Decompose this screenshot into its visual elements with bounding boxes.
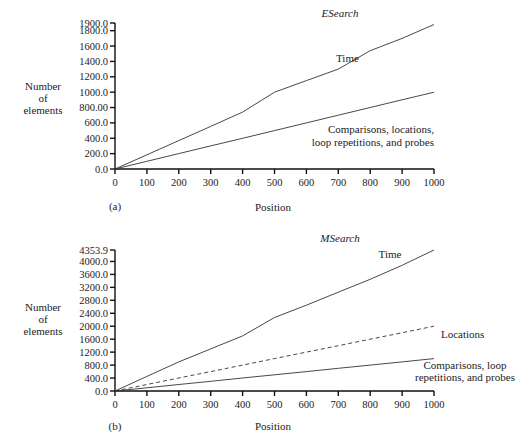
y-tick-label: 1200.0 — [79, 71, 108, 82]
esearch-chart: 0.0200.0400.0600.0800.001000.01200.01400… — [0, 0, 530, 222]
y-tick-label: 200.0 — [84, 148, 108, 159]
x-axis-label: Position — [255, 420, 292, 432]
x-tick-label: 1000 — [424, 399, 445, 410]
y-axis-label-line1: Number — [25, 301, 61, 313]
x-tick-label: 200 — [171, 177, 187, 188]
y-tick-label: 3200.0 — [79, 282, 108, 293]
x-tick-label: 1000 — [424, 177, 445, 188]
series-line-locations — [115, 326, 434, 391]
x-tick-label: 500 — [267, 177, 283, 188]
x-tick-label: 700 — [330, 177, 346, 188]
x-tick-label: 600 — [299, 399, 315, 410]
panel-label: (a) — [109, 200, 122, 213]
x-tick-label: 100 — [139, 399, 155, 410]
panel-label: (b) — [109, 420, 122, 433]
annotation-locations: Locations — [441, 328, 484, 340]
x-tick-label: 800 — [362, 399, 378, 410]
annotation-comparisons-line2: loop repetitions, and probes — [312, 136, 434, 148]
annotation-comparisons-line1: Comparisons, locations, — [328, 123, 434, 135]
y-tick-label: 1600.0 — [79, 41, 108, 52]
annotation-comparisons-line2: repetitions, and probes — [415, 371, 515, 383]
y-tick-label: 400.0 — [84, 133, 108, 144]
esearch-plot: 0.0200.0400.0600.0800.001000.01200.01400… — [0, 0, 530, 222]
x-tick-label: 700 — [330, 399, 346, 410]
y-axis-label-line3: elements — [23, 325, 62, 337]
y-tick-label: 4353.9 — [79, 245, 108, 256]
x-tick-label: 300 — [203, 399, 219, 410]
series-line-comparisons — [115, 359, 434, 391]
chart-title: ESearch — [321, 7, 359, 19]
axis-lines — [115, 250, 434, 391]
x-tick-label: 0 — [112, 177, 117, 188]
x-tick-label: 100 — [139, 177, 155, 188]
y-axis-label-line2: of — [38, 92, 48, 104]
x-tick-label: 900 — [394, 177, 410, 188]
x-tick-label: 0 — [112, 399, 117, 410]
chart-title: MSearch — [319, 232, 360, 244]
annotation-time: Time — [379, 248, 402, 260]
y-axis-label-line1: Number — [25, 80, 61, 92]
x-tick-label: 300 — [203, 177, 219, 188]
y-tick-label: 800.0 — [84, 360, 108, 371]
x-tick-label: 200 — [171, 399, 187, 410]
y-axis-label-line3: elements — [23, 104, 62, 116]
y-tick-label: 0.0 — [95, 386, 108, 397]
y-tick-label: 800.00 — [79, 102, 108, 113]
y-tick-label: 2400.0 — [79, 308, 108, 319]
annotation-comparisons-line1: Comparisons, loop — [423, 359, 507, 371]
x-tick-label: 400 — [235, 177, 251, 188]
y-tick-label: 1900.0 — [79, 18, 108, 29]
msearch-plot: 0.0400.0800.01200.01600.02000.02400.0280… — [0, 222, 530, 445]
x-tick-label: 500 — [267, 399, 283, 410]
x-tick-label: 400 — [235, 399, 251, 410]
y-tick-label: 0.0 — [95, 164, 108, 175]
annotation-time: Time — [336, 52, 359, 64]
y-tick-label: 3600.0 — [79, 269, 108, 280]
y-tick-label: 600.0 — [84, 117, 108, 128]
y-tick-label: 1000.0 — [79, 87, 108, 98]
y-tick-label: 1600.0 — [79, 334, 108, 345]
series-line-time — [115, 250, 434, 391]
msearch-chart: 0.0400.0800.01200.01600.02000.02400.0280… — [0, 222, 530, 445]
y-tick-label: 1200.0 — [79, 347, 108, 358]
y-tick-label: 1400.0 — [79, 56, 108, 67]
y-tick-label: 2000.0 — [79, 321, 108, 332]
x-tick-label: 600 — [299, 177, 315, 188]
y-axis-label-line2: of — [38, 313, 48, 325]
x-tick-label: 800 — [362, 177, 378, 188]
y-tick-label: 4000.0 — [79, 256, 108, 267]
y-tick-label: 400.0 — [84, 373, 108, 384]
x-tick-label: 900 — [394, 399, 410, 410]
x-axis-label: Position — [255, 201, 292, 213]
y-tick-label: 2800.0 — [79, 295, 108, 306]
